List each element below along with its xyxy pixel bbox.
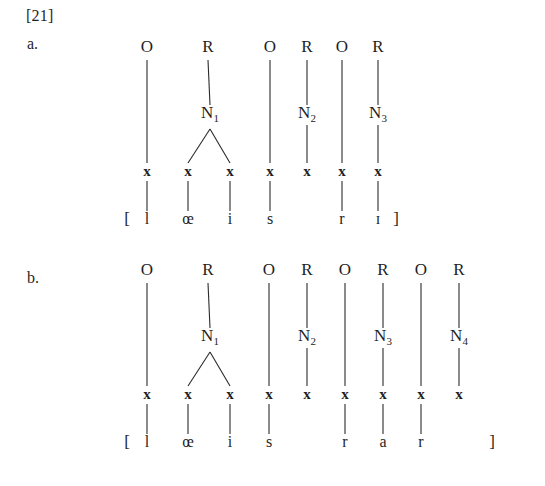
rhyme-node-label: R (377, 260, 389, 279)
segment-label: r (418, 433, 424, 450)
skeletal-slot-x: x (379, 386, 387, 402)
onset-node-label: O (415, 260, 427, 279)
nucleus-to-slot-branch (188, 352, 210, 386)
skeletal-slot-x: x (417, 386, 425, 402)
segment-label: s (266, 433, 272, 450)
rhyme-node-label: R (453, 260, 465, 279)
onset-node-label: O (141, 260, 153, 279)
figure-page: [21] a. b. []OxlRxœxiOxsRxOxrRxɪN1N2N3 [… (0, 0, 545, 486)
rhyme-node-label: R (301, 260, 313, 279)
skeletal-slot-x: x (303, 386, 311, 402)
nucleus-label: N4 (450, 326, 468, 347)
skeletal-slot-x: x (226, 386, 234, 402)
segment-label: œ (182, 433, 194, 450)
segment-label: i (228, 433, 233, 450)
skeletal-slot-x: x (265, 386, 273, 402)
skeletal-slot-x: x (143, 386, 151, 402)
rhyme-node-label: R (202, 260, 214, 279)
skeletal-slot-x: x (184, 386, 192, 402)
rhyme-to-nucleus-line (208, 283, 210, 328)
open-bracket: [ (124, 432, 130, 451)
skeletal-slot-x: x (455, 386, 463, 402)
nucleus-label: N3 (374, 326, 392, 347)
syllable-tree-diagram-b: []OxlRxœxiOxsRxOxrRxaOxrRxN1N2N3N4 (0, 0, 545, 486)
onset-node-label: O (263, 260, 275, 279)
nucleus-label: N2 (298, 326, 316, 347)
segment-label: r (342, 433, 348, 450)
segment-label: a (379, 433, 386, 450)
onset-node-label: O (339, 260, 351, 279)
skeletal-slot-x: x (341, 386, 349, 402)
segment-label: l (145, 433, 150, 450)
nucleus-label: N1 (201, 326, 219, 347)
nucleus-to-slot-branch (210, 352, 230, 386)
close-bracket: ] (489, 432, 495, 451)
